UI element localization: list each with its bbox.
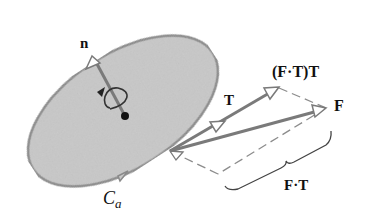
stokes-circulation-diagram: n T (F·T)T F F·T Ca xyxy=(0,0,369,215)
label-curve-sub: a xyxy=(115,196,122,211)
label-F: F xyxy=(334,97,344,114)
label-projection: (F·T)T xyxy=(272,63,319,81)
label-curve-C: Ca xyxy=(103,188,122,211)
label-n: n xyxy=(80,35,89,51)
label-T: T xyxy=(224,92,234,108)
center-point xyxy=(121,112,129,120)
label-F-dot-T: F·T xyxy=(284,177,308,193)
tangent-vector-T xyxy=(210,121,225,132)
origin-arrowhead-icon xyxy=(170,151,183,160)
